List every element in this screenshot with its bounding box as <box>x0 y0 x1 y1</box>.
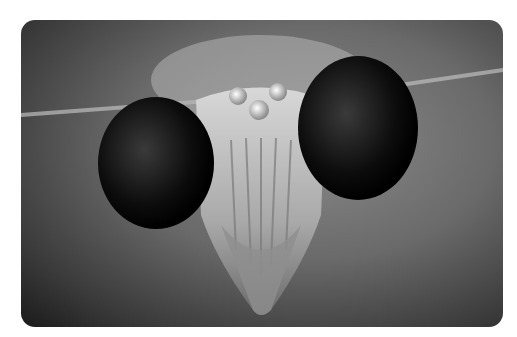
mantis-illustration <box>21 20 503 327</box>
mantis-photo: Praying mantis head close-up <box>21 20 503 327</box>
